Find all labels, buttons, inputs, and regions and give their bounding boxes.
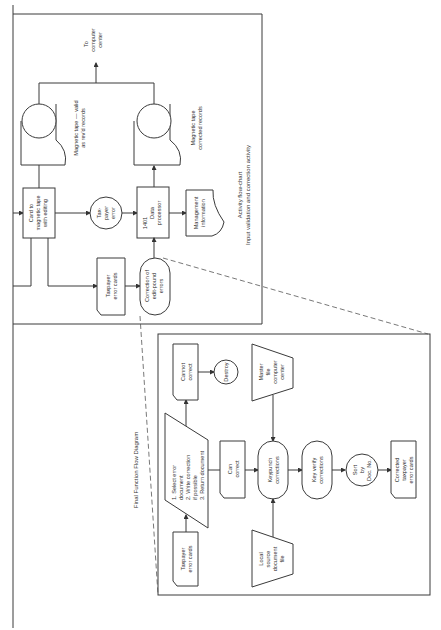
svg-text:correct: correct [234,460,240,478]
svg-text:Cannot: Cannot [180,363,186,381]
svg-text:errors: errors [158,278,164,293]
svg-text:processor: processor [156,201,162,226]
svg-text:Doc. No.: Doc. No. [366,459,372,481]
local-source-document-node: Local source document file [252,530,293,587]
svg-text:Sort: Sort [352,464,358,475]
svg-text:Local: Local [258,552,264,565]
svg-text:document: document [178,475,184,500]
svg-text:Magnetic tape — valid: Magnetic tape — valid [73,100,79,155]
svg-text:Can: Can [227,464,233,474]
svg-text:file: file [279,555,285,562]
svg-text:Final Function Flow Diagram: Final Function Flow Diagram [133,432,139,508]
svg-text:2. Write correction: 2. Write correction [185,455,191,500]
can-correct-node: Can correct [220,441,245,498]
svg-text:computer: computer [90,28,96,51]
management-information-node: Management information [186,190,224,236]
taxpayer-error-cards-node-bottom: Taxpayer error cards [173,532,198,586]
svg-text:Input validation and correctio: Input validation and correction activity [245,145,251,245]
svg-text:Correction of: Correction of [144,270,150,302]
sort-by-doc-node: Sort by Doc. No. [346,454,378,486]
top-panel-frame [13,14,262,324]
svg-text:3. Return document: 3. Return document [199,450,205,500]
svg-text:Card to: Card to [28,204,34,222]
svg-text:as rev'd records: as rev'd records [80,108,86,148]
svg-text:error cards: error cards [112,272,118,299]
svg-text:error cards: error cards [408,456,414,483]
svg-text:correct: correct [187,363,193,381]
cannot-correct-node: Cannot correct [173,344,198,400]
svg-text:corrections: corrections [318,456,324,484]
flowchart-canvas: Card to magnetic tape with editing Magne… [0,0,441,630]
svg-text:center: center [279,364,285,380]
svg-text:if possible: if possible [192,475,198,500]
card-to-tape-node: Card to magnetic tape with editing [23,188,55,238]
magnetic-tape-corrected-node: Magnetic tape corrected records [134,104,203,165]
svg-text:Key verify: Key verify [311,458,317,483]
svg-text:error: error [110,207,116,219]
svg-text:Taxpayer: Taxpayer [180,548,186,571]
svg-text:edit-pound: edit-pound [151,273,157,299]
destroy-node: Destroy [214,360,238,384]
bottom-panel-caption: Final Function Flow Diagram [133,432,139,508]
svg-text:1401: 1401 [142,217,148,229]
svg-text:by: by [359,467,365,473]
svg-text:information: information [200,199,206,227]
taxpayer-error-cards-node-top: Taxpayer error cards [97,258,125,315]
svg-text:Magnetic tape: Magnetic tape [190,110,196,145]
magnetic-tape-valid-node: Magnetic tape — valid as rev'd records [21,100,86,165]
taxpayer-error-node: Tax- payer error [90,197,122,229]
svg-text:payer: payer [103,206,109,220]
svg-text:corrections: corrections [274,456,280,484]
master-file-node: Master file computer center [252,344,293,401]
key-verify-corrections-node: Key verify corrections [302,441,332,499]
svg-text:Destroy: Destroy [223,362,229,381]
svg-text:Activity flow-chart: Activity flow-chart [237,171,243,218]
svg-text:file: file [265,368,271,375]
svg-text:taxpayer: taxpayer [401,459,407,481]
to-computer-center-label: To computer center [83,28,103,51]
svg-text:corrected records: corrected records [197,106,203,150]
svg-text:Keypunch: Keypunch [267,458,273,483]
svg-text:document: document [272,546,278,571]
svg-text:Corrected: Corrected [394,458,400,483]
correction-errors-node: Correction of edit-pound errors [140,258,170,315]
svg-text:Data: Data [149,206,155,219]
svg-text:Master: Master [258,363,264,380]
svg-text:To: To [83,41,89,47]
svg-text:magnetic tape: magnetic tape [35,195,41,230]
zoom-guide-line [163,258,428,334]
keypunch-corrections-node: Keypunch corrections [258,441,288,499]
corrected-taxpayer-cards-node: Corrected taxpayer error cards [391,441,416,498]
svg-text:Taxpayer: Taxpayer [105,275,111,298]
svg-text:computer: computer [272,360,278,383]
svg-text:center: center [97,32,103,48]
svg-text:Management: Management [193,196,199,229]
svg-text:error cards: error cards [187,545,193,572]
svg-text:source: source [265,551,271,568]
svg-text:Tax-: Tax- [96,208,102,219]
zoom-guide-line [140,316,158,595]
svg-text:1. Select error: 1. Select error [171,465,177,500]
svg-text:with editing: with editing [42,199,48,228]
select-error-document-node: 1. Select error document 2. Write correc… [165,413,208,528]
data-processor-node: 1401 Data processor [137,187,169,238]
top-panel-caption: Activity flow-chart Input validation and… [237,145,251,245]
